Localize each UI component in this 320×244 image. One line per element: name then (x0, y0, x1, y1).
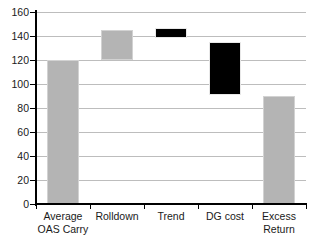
bar-excess-return (263, 96, 294, 204)
y-tick-label: 160 (1, 7, 29, 17)
y-tick-label: 60 (1, 127, 29, 137)
x-tick-mark (144, 204, 145, 209)
bar-average-oas-carry (47, 60, 78, 204)
x-axis-line (35, 203, 307, 205)
x-category-label-line: Trend (144, 210, 198, 223)
x-category-label: AverageOAS Carry (36, 210, 90, 236)
x-tick-mark (90, 204, 91, 209)
x-category-label: DG cost (198, 210, 252, 223)
y-tick-label: 140 (1, 31, 29, 41)
y-tick-label: 0 (1, 199, 29, 209)
x-tick-mark (252, 204, 253, 209)
bar-dg-cost (209, 42, 240, 95)
x-tick-mark (306, 204, 307, 209)
gridline (36, 12, 306, 13)
x-category-label-line: OAS Carry (36, 223, 90, 236)
plot-area (36, 12, 306, 204)
y-tick-label: 40 (1, 151, 29, 161)
x-tick-mark (198, 204, 199, 209)
bar-rolldown (101, 30, 132, 60)
y-tick-label: 120 (1, 55, 29, 65)
x-axis-labels: AverageOAS CarryRolldownTrendDG costExce… (36, 210, 306, 244)
x-category-label-line: Return (252, 223, 306, 236)
x-category-label: Rolldown (90, 210, 144, 223)
waterfall-chart: 020406080100120140160 AverageOAS CarryRo… (0, 0, 320, 244)
x-category-label: ExcessReturn (252, 210, 306, 236)
y-axis-labels: 020406080100120140160 (0, 0, 29, 244)
x-tick-mark (36, 204, 37, 209)
x-category-label-line: DG cost (198, 210, 252, 223)
bar-trend (155, 28, 186, 39)
y-tick-label: 100 (1, 79, 29, 89)
x-category-label-line: Rolldown (90, 210, 144, 223)
y-axis-line (35, 10, 37, 206)
y-tick-label: 20 (1, 175, 29, 185)
y-tick-label: 80 (1, 103, 29, 113)
x-category-label: Trend (144, 210, 198, 223)
x-category-label-line: Excess (252, 210, 306, 223)
x-category-label-line: Average (36, 210, 90, 223)
